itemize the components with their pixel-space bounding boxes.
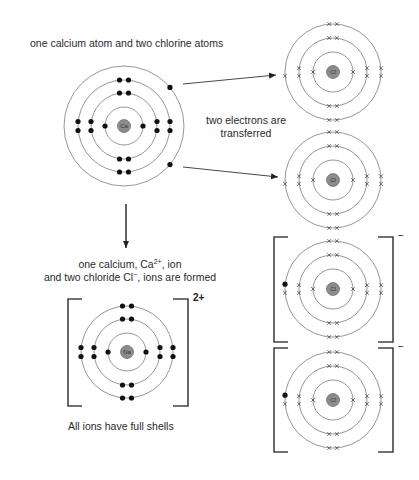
electron	[140, 123, 145, 128]
electron	[126, 77, 131, 82]
nucleus-symbol: Na	[123, 349, 131, 355]
electron	[129, 395, 134, 400]
electron	[120, 395, 125, 400]
electron	[129, 303, 134, 308]
electron	[117, 156, 122, 161]
electron	[117, 90, 122, 95]
electron	[126, 169, 131, 174]
chloride-ion-2-charge: −	[398, 341, 404, 352]
transfer-caption-line2: transferred	[200, 127, 292, 140]
electron	[143, 349, 148, 354]
electron	[105, 349, 110, 354]
electron	[78, 354, 83, 359]
chloride-ion-1: Cl	[282, 239, 382, 339]
electron	[154, 128, 159, 133]
valence-electron	[167, 85, 172, 90]
formed-caption-line2: and two chloride Cl−, ions are formed	[30, 271, 230, 284]
valence-electron	[167, 162, 172, 167]
electron	[157, 345, 162, 350]
electron	[154, 119, 159, 124]
electron	[120, 316, 125, 321]
calcium-ion-charge: 2+	[193, 292, 204, 303]
chlorine-atom-1: Cl	[283, 22, 383, 122]
nucleus-symbol: Cl	[330, 286, 336, 292]
electron	[170, 354, 175, 359]
electron	[167, 128, 172, 133]
transferred-electron	[282, 282, 287, 287]
electron	[126, 90, 131, 95]
top-caption: one calcium atom and two chlorine atoms	[30, 37, 223, 50]
calcium-atom: Ca	[64, 66, 184, 186]
transferred-electron	[282, 393, 287, 398]
electron	[91, 345, 96, 350]
formed-line2-suffix: , ions are formed	[137, 271, 216, 283]
electron	[129, 316, 134, 321]
bottom-caption: All ions have full shells	[68, 420, 174, 433]
electron	[78, 345, 83, 350]
electron	[91, 354, 96, 359]
chloride-ion-2: Cl	[282, 350, 382, 450]
nucleus-symbol: Cl	[330, 69, 336, 75]
formed-caption-line1: one calcium, Ca2+, ion	[30, 258, 230, 271]
electron	[126, 156, 131, 161]
electron	[75, 119, 80, 124]
calcium-ion: Na	[78, 303, 175, 400]
electron	[117, 77, 122, 82]
electron	[167, 119, 172, 124]
electron	[120, 382, 125, 387]
electron	[129, 382, 134, 387]
nucleus-symbol: Cl	[330, 177, 336, 183]
transfer-arrow-top	[183, 75, 276, 84]
electron	[157, 354, 162, 359]
nucleus-symbol: Cl	[330, 397, 336, 403]
transfer-arrow-bottom	[183, 167, 278, 177]
electron	[75, 128, 80, 133]
electron	[170, 345, 175, 350]
chloride-ion-1-charge: −	[398, 230, 404, 241]
transfer-caption-line1: two electrons are	[200, 114, 292, 127]
electron	[120, 303, 125, 308]
transfer-caption: two electrons are transferred	[200, 114, 292, 140]
chlorine-atom-2: Cl	[283, 130, 383, 230]
electron	[102, 123, 107, 128]
electron	[88, 119, 93, 124]
ionic-bonding-diagram: CaClClNaClCl	[0, 0, 419, 480]
electron	[88, 128, 93, 133]
formed-line2-text: and two chloride Cl	[44, 271, 133, 283]
calcium-charge-superscript: 2+	[154, 258, 162, 265]
formed-caption: one calcium, Ca2+, ion and two chloride …	[30, 258, 230, 284]
nucleus-symbol: Ca	[120, 123, 128, 129]
electron	[117, 169, 122, 174]
formed-line1-text: one calcium, Ca	[78, 258, 153, 270]
formed-line1-suffix: , ion	[162, 258, 182, 270]
